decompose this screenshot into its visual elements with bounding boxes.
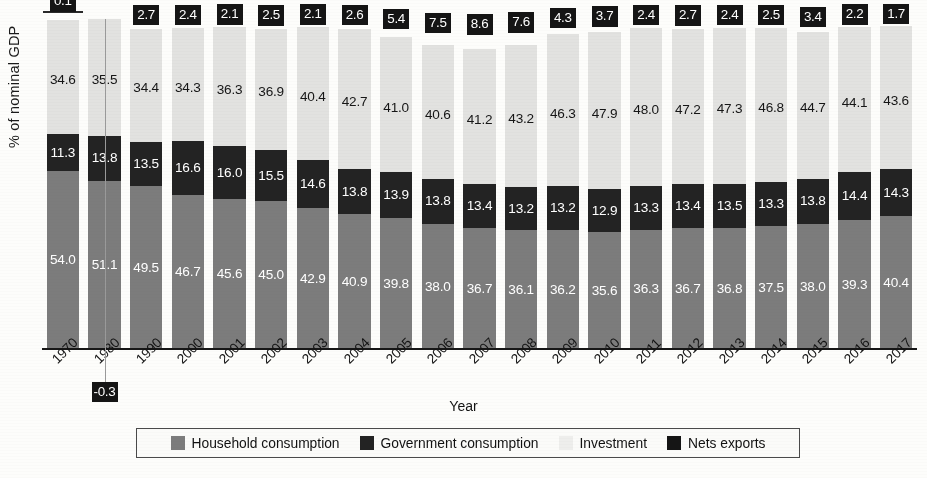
investment-segment: 44.1: [838, 27, 871, 172]
household-consumption-segment: 49.5: [130, 186, 163, 349]
legend-label: Government consumption: [381, 436, 539, 451]
netexports-swatch-icon: [667, 436, 681, 450]
legend-item-0[interactable]: Household consumption: [171, 436, 340, 451]
government-consumption-segment: 14.6: [297, 160, 330, 208]
legend-label: Nets exports: [688, 436, 765, 451]
net-exports-value: 5.4: [383, 9, 409, 29]
y-axis-title: % of nominal GDP: [6, 0, 22, 148]
net-exports-leader-line: [105, 19, 106, 382]
government-consumption-segment: 13.8: [797, 179, 830, 224]
investment-swatch-icon: [559, 436, 573, 450]
government-consumption-segment: 13.5: [713, 184, 746, 228]
government-consumption-segment: 12.9: [588, 189, 621, 231]
net-exports-value: 1.7: [883, 4, 909, 24]
legend-item-2[interactable]: Investment: [559, 436, 647, 451]
investment-segment: 47.2: [672, 29, 705, 184]
bar-column: 34.316.646.7: [172, 28, 205, 349]
bar-column: 42.713.840.9: [338, 29, 371, 349]
x-axis-title: Year: [0, 398, 927, 414]
bar-column: 40.613.838.0: [422, 45, 455, 349]
chart-legend: Household consumptionGovernment consumpt…: [136, 428, 800, 458]
investment-segment: 34.4: [130, 29, 163, 142]
net-exports-value: 2.4: [633, 5, 659, 25]
investment-segment: 34.3: [172, 28, 205, 141]
household-consumption-segment: 39.3: [838, 220, 871, 349]
net-exports-value: 0.1: [50, 0, 76, 12]
government-consumption-segment: 11.3: [47, 134, 80, 171]
household-consumption-segment: 40.9: [338, 214, 371, 349]
bar-column: 48.013.336.3: [630, 28, 663, 349]
plot-area: 34.611.354.035.513.851.134.413.549.534.3…: [42, 20, 917, 349]
net-exports-value: 2.1: [300, 4, 326, 24]
household-consumption-segment-value: 46.7: [175, 265, 201, 279]
bar-column: 47.213.436.7: [672, 29, 705, 349]
household-consumption-segment-value: 36.2: [550, 283, 576, 297]
government-consumption-segment: 14.3: [880, 169, 913, 216]
investment-segment-value: 41.0: [383, 101, 409, 115]
bar-column: 44.713.838.0: [797, 32, 830, 349]
investment-segment: 41.0: [380, 37, 413, 172]
investment-segment-value: 40.6: [425, 108, 451, 122]
government-consumption-segment-value: 14.3: [883, 186, 909, 200]
net-exports-value: -0.3: [92, 382, 118, 402]
net-exports-value: 2.7: [675, 5, 701, 25]
household-consumption-segment: 45.6: [213, 199, 246, 349]
government-consumption-segment-value: 16.6: [175, 161, 201, 175]
bar-column: 36.316.045.6: [213, 27, 246, 349]
investment-segment: 40.4: [297, 27, 330, 160]
investment-segment: 46.8: [755, 28, 788, 182]
investment-segment-value: 41.2: [467, 113, 493, 127]
government-consumption-segment: 13.4: [463, 184, 496, 228]
net-exports-value: 3.4: [800, 7, 826, 27]
investment-segment: 40.6: [422, 45, 455, 179]
investment-segment-value: 43.2: [508, 112, 534, 126]
government-consumption-segment: 13.4: [672, 184, 705, 228]
household-consumption-segment-value: 39.3: [842, 278, 868, 292]
household-consumption-segment: 36.2: [547, 230, 580, 349]
investment-segment: 44.7: [797, 32, 830, 179]
legend-item-1[interactable]: Government consumption: [360, 436, 539, 451]
legend-item-3[interactable]: Nets exports: [667, 436, 765, 451]
investment-segment: 36.9: [255, 29, 288, 150]
legend-label: Household consumption: [192, 436, 340, 451]
household-consumption-segment: 38.0: [422, 224, 455, 349]
investment-segment: 47.9: [588, 32, 621, 190]
government-consumption-segment: 13.5: [130, 142, 163, 186]
net-exports-value: 2.5: [758, 5, 784, 25]
household-consumption-segment-value: 36.8: [717, 282, 743, 296]
government-consumption-segment-value: 12.9: [592, 204, 618, 218]
government-consumption-segment-value: 14.6: [300, 177, 326, 191]
bar-column: 43.614.340.4: [880, 26, 913, 349]
investment-segment: 48.0: [630, 28, 663, 186]
government-consumption-segment: 13.9: [380, 172, 413, 218]
government-consumption-segment-value: 13.5: [717, 199, 743, 213]
net-exports-value: 8.6: [467, 14, 493, 34]
household-consumption-segment: 42.9: [297, 208, 330, 349]
government-consumption-segment-value: 13.8: [800, 194, 826, 208]
investment-segment-value: 47.9: [592, 107, 618, 121]
household-consumption-segment-value: 36.1: [508, 283, 534, 297]
household-consumption-segment: 36.3: [630, 230, 663, 349]
investment-segment-value: 47.2: [675, 103, 701, 117]
net-exports-value: 2.6: [342, 5, 368, 25]
government-consumption-segment: 13.3: [755, 182, 788, 226]
investment-segment-value: 48.0: [633, 103, 659, 117]
investment-segment: 42.7: [338, 29, 371, 169]
government-consumption-segment-value: 13.5: [133, 157, 159, 171]
government-consumption-segment-value: 13.8: [342, 185, 368, 199]
household-consumption-segment-value: 45.6: [217, 267, 243, 281]
investment-segment-value: 34.3: [175, 81, 201, 95]
bar-column: 34.611.354.0: [47, 20, 80, 349]
investment-segment: 36.3: [213, 27, 246, 146]
household-consumption-segment-value: 49.5: [133, 261, 159, 275]
household-consumption-segment-value: 38.0: [800, 280, 826, 294]
bar-column: 36.915.545.0: [255, 29, 288, 349]
government-consumption-segment-value: 13.9: [383, 188, 409, 202]
household-consumption-segment: 36.8: [713, 228, 746, 349]
household-consumption-segment-value: 36.7: [467, 282, 493, 296]
investment-segment-value: 34.4: [133, 81, 159, 95]
household-consumption-segment-value: 45.0: [258, 268, 284, 282]
investment-segment: 46.3: [547, 34, 580, 186]
household-consumption-segment-value: 38.0: [425, 280, 451, 294]
bar-column: 34.413.549.5: [130, 29, 163, 349]
